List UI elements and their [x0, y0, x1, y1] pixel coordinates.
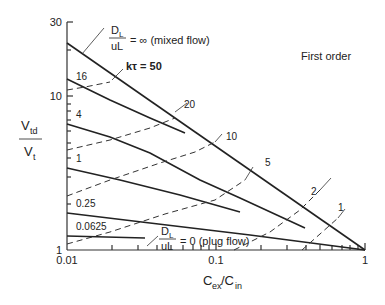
- label-k5: 5: [265, 157, 271, 168]
- dash-20: [67, 118, 175, 150]
- label-k1: 1: [338, 202, 344, 213]
- y-tick-10: 10: [50, 90, 62, 102]
- svg-text:t: t: [33, 152, 36, 162]
- x-axis-label: C ex /C in: [203, 273, 242, 291]
- svg-text:td: td: [30, 126, 38, 136]
- solid-lines: [67, 43, 365, 250]
- label-k10: 10: [226, 131, 238, 142]
- svg-text:= 0 (plug flow): = 0 (plug flow): [180, 235, 249, 247]
- x-tick-01: 0.1: [208, 254, 223, 266]
- label-00625: 0.0625: [76, 221, 107, 232]
- ktau-label: kτ = 50: [126, 60, 162, 72]
- svg-text:/C: /C: [221, 273, 234, 288]
- label-16: 16: [76, 71, 88, 82]
- chart: 30 10 1 0.01 0.1 1 V td V t C ex /C in D…: [0, 0, 385, 305]
- label-025: 0.25: [76, 198, 96, 209]
- svg-text:D: D: [111, 24, 119, 36]
- mixed-flow-annotation: D L uL = ∞ (mixed flow): [109, 24, 210, 52]
- label-1: 1: [76, 153, 82, 164]
- label-k2: 2: [311, 186, 317, 197]
- svg-text:in: in: [235, 281, 242, 291]
- svg-text:uL: uL: [161, 240, 173, 252]
- y-axis-label: V td V t: [19, 118, 42, 162]
- svg-text:= ∞ (mixed flow): = ∞ (mixed flow): [130, 34, 210, 46]
- svg-text:D: D: [161, 225, 169, 237]
- svg-text:V: V: [21, 118, 30, 133]
- label-4: 4: [76, 109, 82, 120]
- y-tick-30: 30: [50, 16, 62, 28]
- x-tick-1: 1: [362, 254, 368, 266]
- first-order-label: First order: [301, 50, 351, 62]
- svg-text:C: C: [203, 273, 212, 288]
- line-16: [67, 79, 185, 133]
- line-00625: [67, 236, 145, 238]
- label-k20: 20: [184, 99, 196, 110]
- svg-text:uL: uL: [111, 40, 123, 52]
- svg-text:V: V: [24, 144, 33, 159]
- x-tick-001: 0.01: [56, 254, 77, 266]
